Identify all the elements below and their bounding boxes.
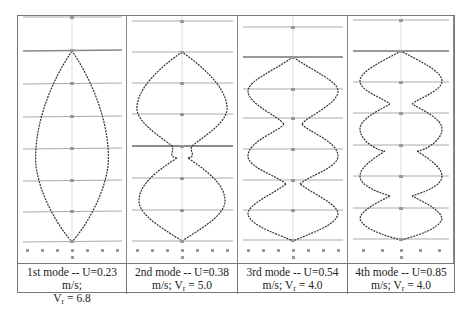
panel-mode-4 [348,16,454,263]
mode-1-plot [18,16,127,263]
panel-mode-1 [18,16,127,263]
caption-mode-4: 4th mode -- U=0.85 m/s; Vr = 4.0 [348,264,454,294]
panel-mode-2 [127,16,238,263]
caption-line2: Vr = 6.8 [18,292,126,308]
caption-mode-1: 1st mode -- U=0.23 m/s; Vr = 6.8 [18,264,127,294]
caption-line1: 3rd mode -- U=0.54 [238,266,347,279]
caption-line2: m/s; Vr = 4.0 [238,279,347,295]
caption-line2: m/s; Vr = 4.0 [348,279,454,295]
mode-3-plot [238,16,348,263]
mode-4-plot [348,16,454,263]
mode-2-plot [127,16,238,263]
caption-line1: 1st mode -- U=0.23 m/s; [18,266,126,292]
panel-mode-3 [238,16,348,263]
caption-line1: 4th mode -- U=0.85 [348,266,454,279]
caption-line1: 2nd mode -- U=0.38 [127,266,237,279]
mode-shapes-figure: 1st mode -- U=0.23 m/s; Vr = 6.8 2nd mod… [17,15,455,293]
caption-mode-2: 2nd mode -- U=0.38 m/s; Vr = 5.0 [127,264,238,294]
caption-mode-3: 3rd mode -- U=0.54 m/s; Vr = 4.0 [238,264,348,294]
caption-row: 1st mode -- U=0.23 m/s; Vr = 6.8 2nd mod… [18,263,454,294]
caption-line2: m/s; Vr = 5.0 [127,279,237,295]
